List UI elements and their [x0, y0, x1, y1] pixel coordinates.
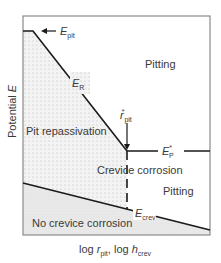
region-no-crevice-corrosion: No crevice corrosion — [32, 217, 132, 229]
e-pit-arrowhead-icon — [41, 28, 47, 34]
e-pit-label: Epit — [60, 25, 75, 40]
region-pitting-lower: Pitting — [163, 185, 194, 197]
region-pitting-upper: Pitting — [145, 58, 176, 70]
r-pit-star-label: r*pit — [120, 108, 132, 124]
region-crevice-corrosion: Crevice corrosion — [97, 164, 183, 176]
diagram-canvas: Epit ER r*pit E*P Ecrev Pitting Pit repa… — [0, 0, 221, 263]
region-pit-repassivation: Pit repassivation — [26, 125, 107, 137]
x-axis-label: log rpit, log hcrev — [79, 243, 152, 258]
pit-repassivation-region — [23, 31, 127, 209]
y-axis-label: Potential E — [6, 84, 18, 138]
